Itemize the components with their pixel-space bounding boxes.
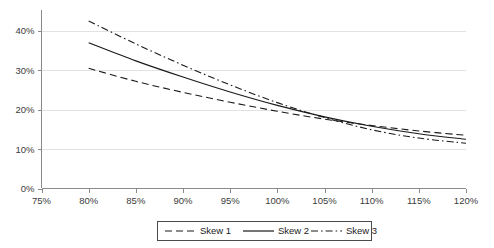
y-axis-label: 30% [15, 65, 35, 76]
y-axis-label: 0% [21, 183, 35, 194]
x-axis-label: 95% [221, 195, 241, 206]
chart-canvas: 0%10%20%30%40% 75%80%85%90%95%100%105%11… [0, 0, 494, 248]
x-axis-label: 85% [126, 195, 146, 206]
series-line-2 [89, 43, 466, 140]
x-axis-label: 120% [454, 195, 479, 206]
series-line-3 [89, 21, 466, 143]
legend-label-1: Skew 1 [200, 225, 231, 236]
legend-label-2: Skew 2 [278, 225, 309, 236]
legend-label-3: Skew 3 [346, 225, 377, 236]
x-axis-label: 75% [32, 195, 52, 206]
x-axis-labels: 75%80%85%90%95%100%105%110%115%120% [32, 195, 479, 206]
x-axis-label: 100% [265, 195, 290, 206]
data-series [89, 21, 466, 143]
x-axis-label: 110% [360, 195, 384, 206]
x-axis-label: 90% [173, 195, 193, 206]
y-axis-ticks [38, 32, 42, 190]
y-axis-label: 40% [15, 25, 35, 36]
line-chart: 0%10%20%30%40% 75%80%85%90%95%100%105%11… [0, 0, 494, 248]
x-axis-label: 115% [407, 195, 431, 206]
y-axis-labels: 0%10%20%30%40% [15, 25, 35, 194]
y-axis-label: 10% [15, 144, 35, 155]
series-line-1 [89, 68, 466, 135]
x-axis-label: 80% [79, 195, 99, 206]
x-axis-label: 105% [312, 195, 337, 206]
y-axis-label: 20% [15, 104, 35, 115]
x-axis-ticks [43, 189, 467, 193]
chart-legend: Skew 1Skew 2Skew 3 [158, 222, 378, 241]
